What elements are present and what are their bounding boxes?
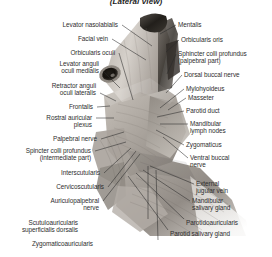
- label-right-4: Mylohyoideus: [186, 85, 224, 92]
- label-right-5: Masseter: [188, 94, 214, 101]
- label-right-7: Mandibular lymph nodes: [190, 120, 226, 135]
- label-right-leader-0: [160, 25, 176, 34]
- label-left-11: Auriculopalpebral nerve: [0, 197, 99, 212]
- label-left-leader-11: [103, 154, 140, 201]
- label-left-leader-0: [122, 25, 152, 46]
- label-left-leader-1: [112, 39, 146, 60]
- label-right-11: Mandibular salivary gland: [192, 197, 230, 212]
- label-bottom-1: Zygomaticoauricularis: [0, 240, 93, 247]
- label-right-8: Zygomaticus: [186, 141, 222, 148]
- label-right-leader-4: [160, 89, 184, 108]
- label-left-6: Rostral auricular plexus: [0, 114, 92, 129]
- label-left-leader-2: [119, 53, 133, 100]
- label-right-2: Sphincter colli profundus (palpebral par…: [178, 50, 247, 65]
- label-left-4: Retractor anguli oculi lateralis: [0, 82, 96, 97]
- label-right-leader-6: [157, 111, 184, 117]
- label-right-leader-3: [166, 75, 182, 93]
- label-left-3: Levator anguli oculi medialis: [0, 60, 99, 75]
- label-right-1: Orbicularis oris: [181, 36, 223, 43]
- label-left-9: Interscutularis: [0, 169, 100, 176]
- label-bottom-leader-1: [156, 170, 158, 240]
- label-right-6: Parotid duct: [186, 107, 220, 114]
- label-right-3: Dorsal buccal nerve: [184, 71, 240, 78]
- label-left-5: Frontalis: [0, 103, 93, 110]
- label-right-leader-11: [143, 170, 190, 201]
- label-right-leader-2: [167, 54, 176, 74]
- label-right-9: Ventral buccal nerve: [190, 154, 229, 169]
- anatomical-figure: (Lateral view): [0, 0, 272, 257]
- label-left-leader-7: [101, 132, 124, 139]
- label-right-leader-12: [136, 173, 184, 219]
- label-right-13: Parotid salivary gland: [170, 230, 230, 237]
- label-left-leader-8: [95, 142, 126, 151]
- label-left-2: Orbicularis oculi: [0, 49, 115, 56]
- label-left-leader-5: [97, 106, 110, 107]
- label-left-leader-4: [100, 93, 116, 101]
- label-left-0: Levator nasolabialis: [0, 21, 118, 28]
- label-right-leader-10: [150, 166, 194, 184]
- label-left-1: Facial vein: [0, 35, 108, 42]
- label-left-8: Spincter colli profundus (intermediate p…: [0, 147, 91, 162]
- label-right-12: Parotidoauricularis: [186, 219, 238, 226]
- label-bottom-0: Scutuloauricularis superficialis dorsali…: [0, 219, 78, 234]
- label-left-7: Palpebral nerve: [0, 135, 97, 142]
- label-right-10: External jugular vein: [196, 180, 228, 195]
- label-left-leader-9: [104, 148, 131, 173]
- label-left-10: Cervicoscutularis: [0, 183, 104, 190]
- label-left-leader-3: [103, 71, 120, 88]
- label-right-0: Mentalis: [178, 21, 201, 28]
